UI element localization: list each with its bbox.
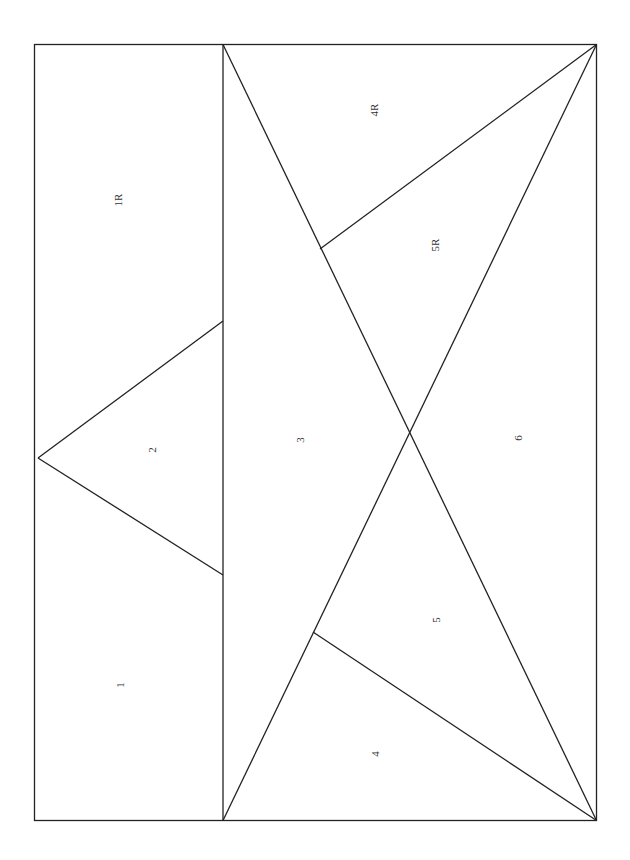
piece-label-1R: 1R xyxy=(112,193,124,207)
piece-label-5R: 5R xyxy=(429,238,441,252)
piece-label-5: 5 xyxy=(430,617,442,623)
triangle-2-lower-edge xyxy=(38,458,223,575)
piece-label-3: 3 xyxy=(294,437,306,443)
piece-label-4: 4 xyxy=(369,751,381,757)
piece-label-2: 2 xyxy=(146,447,158,453)
pattern-diagram: 1R 1 2 3 4R 5R 6 5 4 xyxy=(0,0,630,860)
split-4R-5R xyxy=(320,45,597,250)
piece-label-4R: 4R xyxy=(368,103,380,117)
piece-label-1: 1 xyxy=(114,682,126,688)
outer-border xyxy=(35,45,597,821)
piece-label-6: 6 xyxy=(512,435,524,441)
triangle-2-upper-edge xyxy=(38,321,223,458)
split-4-5 xyxy=(313,632,597,821)
